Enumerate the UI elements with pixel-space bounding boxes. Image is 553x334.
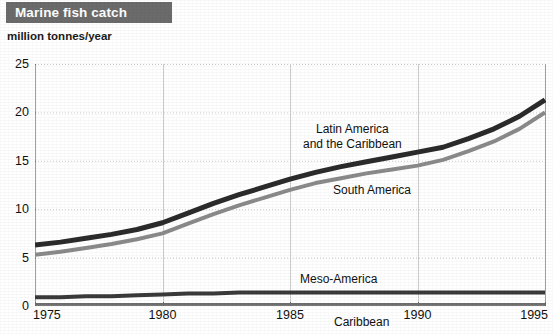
series-label-latin-america-line2: and the Caribbean [303, 137, 402, 152]
page-title: Marine fish catch [15, 5, 127, 20]
x-axis-tick-label: 1975 [33, 309, 61, 322]
line-chart-svg [35, 64, 546, 306]
x-axis-tick-label: 1980 [149, 309, 177, 322]
x-axis-tick-label: 1990 [404, 309, 432, 322]
series-label-meso-america: Meso-America [300, 272, 377, 287]
y-axis-tick-label: 20 [15, 106, 29, 119]
x-axis-tick-label: 1995 [520, 309, 548, 322]
plot-area [35, 64, 546, 306]
x-axis-tick-label: 1985 [276, 309, 304, 322]
y-axis-tick-label: 25 [15, 58, 29, 71]
y-axis-tick-label: 5 [22, 252, 29, 265]
y-axis-tick-label: 15 [15, 155, 29, 168]
series-label-caribbean: Caribbean [334, 315, 389, 330]
chart-title-banner: Marine fish catch [6, 2, 172, 23]
series-label-latin-america-line1: Latin America [303, 122, 402, 137]
series-label-south-america: South America [333, 183, 411, 198]
y-axis-tick-label: 10 [15, 203, 29, 216]
series-label-latin-america: Latin America and the Caribbean [303, 122, 402, 152]
y-axis-tick-labels: 0510152025 [0, 0, 29, 334]
x-axis-tick-labels: 19751980198519901995 [0, 309, 553, 331]
